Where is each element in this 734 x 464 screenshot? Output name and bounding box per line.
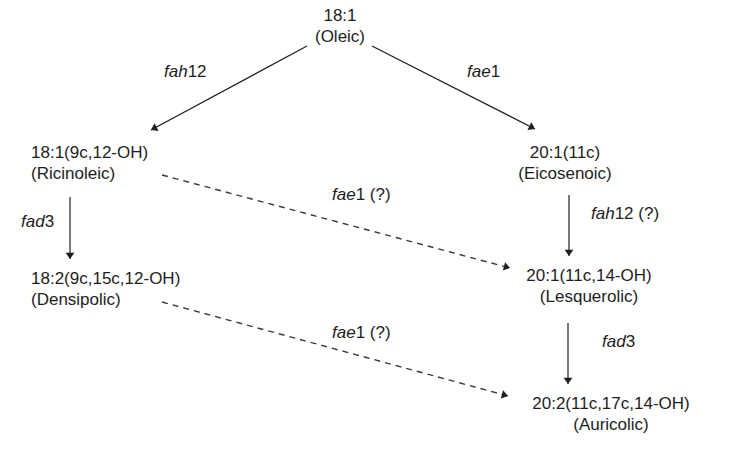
node-densipolic-name: (Densipolic) (31, 289, 180, 310)
node-densipolic-formula: 18:2(9c,15c,12-OH) (31, 268, 180, 289)
gene-name: fae (467, 62, 491, 81)
arrow-oleic-to-eicosenoic (372, 46, 535, 129)
node-densipolic: 18:2(9c,15c,12-OH) (Densipolic) (31, 268, 180, 310)
gene-name: fah (164, 62, 188, 81)
edge-label-fad3-right: fad3 (602, 332, 635, 352)
node-oleic: 18:1 (Oleic) (300, 5, 380, 47)
node-oleic-name: (Oleic) (300, 26, 380, 47)
node-oleic-formula: 18:1 (300, 5, 380, 26)
edge-label-fae1-uncertain-lower: fae1 (?) (332, 323, 391, 343)
edge-label-fad3-left: fad3 (21, 212, 54, 232)
node-eicosenoic-formula: 20:1(11c) (495, 142, 635, 163)
node-ricinoleic-name: (Ricinoleic) (31, 163, 148, 184)
gene-number: 1 (491, 62, 500, 81)
edge-label-fah12: fah12 (164, 62, 207, 82)
gene-name: fae (332, 185, 356, 204)
uncertain-marker: (?) (365, 185, 391, 204)
node-eicosenoic: 20:1(11c) (Eicosenoic) (495, 142, 635, 184)
gene-number: 3 (626, 332, 635, 351)
gene-number: 1 (356, 323, 365, 342)
gene-name: fae (332, 323, 356, 342)
node-auricolic-formula: 20:2(11c,17c,14-OH) (511, 393, 711, 414)
edge-label-fah12-uncertain: fah12 (?) (591, 204, 659, 224)
gene-name: fad (602, 332, 626, 351)
node-auricolic-name: (Auricolic) (511, 414, 711, 435)
gene-number: 1 (356, 185, 365, 204)
dashed-arrow-densipolic-to-auricolic (162, 302, 508, 396)
gene-name: fad (21, 212, 45, 231)
gene-number: 12 (188, 62, 207, 81)
node-ricinoleic-formula: 18:1(9c,12-OH) (31, 142, 148, 163)
node-lesquerolic-name: (Lesquerolic) (509, 286, 669, 307)
node-auricolic: 20:2(11c,17c,14-OH) (Auricolic) (511, 393, 711, 435)
uncertain-marker: (?) (634, 204, 660, 223)
gene-name: fah (591, 204, 615, 223)
uncertain-marker: (?) (365, 323, 391, 342)
gene-number: 3 (45, 212, 54, 231)
node-ricinoleic: 18:1(9c,12-OH) (Ricinoleic) (31, 142, 148, 184)
edge-label-fae1: fae1 (467, 62, 500, 82)
node-eicosenoic-name: (Eicosenoic) (495, 163, 635, 184)
edge-label-fae1-uncertain-upper: fae1 (?) (332, 185, 391, 205)
node-lesquerolic-formula: 20:1(11c,14-OH) (509, 265, 669, 286)
arrow-oleic-to-ricinoleic (151, 46, 307, 130)
gene-number: 12 (615, 204, 634, 223)
node-lesquerolic: 20:1(11c,14-OH) (Lesquerolic) (509, 265, 669, 307)
